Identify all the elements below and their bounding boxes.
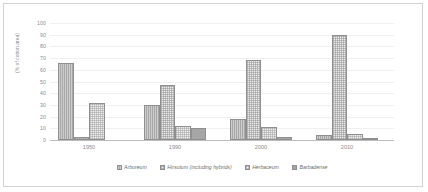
legend-item-label: Herbaceum — [252, 164, 279, 170]
y-axis-tick-label: 30 — [40, 102, 46, 108]
bar-group — [308, 23, 394, 140]
chart-figure-frame: (% of cotton area) 100908070605040302010… — [3, 3, 423, 187]
legend-item-label: Arboreum — [124, 164, 147, 170]
bar — [191, 128, 207, 140]
y-axis-tick-label: 70 — [40, 55, 46, 61]
plot-area — [50, 23, 394, 140]
legend-item-label: Hirsutum (including hybrids) — [167, 164, 231, 170]
chart-legend: ArboreumHirsutum (including hybrids)Herb… — [50, 164, 394, 170]
x-axis-tick-label: 1950 — [83, 144, 95, 150]
x-axis-tick-label: 2000 — [255, 144, 267, 150]
legend-item[interactable]: Barbadense — [292, 164, 327, 170]
bar — [230, 119, 246, 140]
bar — [261, 127, 277, 140]
bar — [58, 63, 74, 140]
legend-swatch-icon — [292, 165, 297, 170]
y-axis-tick-label: 50 — [40, 79, 46, 85]
x-axis-tick-labels: 1950199020002010 — [50, 144, 394, 154]
bar-group — [50, 23, 136, 140]
y-axis-tick-label: 0 — [43, 137, 46, 143]
legend-item[interactable]: Hirsutum (including hybrids) — [160, 164, 232, 170]
x-axis-baseline — [50, 140, 394, 141]
y-axis-tick-label: 20 — [40, 114, 46, 120]
bar-group — [136, 23, 222, 140]
legend-item[interactable]: Arboreum — [117, 164, 147, 170]
y-axis-tick-label: 100 — [37, 20, 46, 26]
bar-group — [222, 23, 308, 140]
y-axis-tick-label: 40 — [40, 90, 46, 96]
x-axis-tick-label: 1990 — [169, 144, 181, 150]
bar — [144, 105, 160, 140]
y-axis-tick-label: 90 — [40, 32, 46, 38]
legend-swatch-icon — [117, 165, 122, 170]
legend-item[interactable]: Herbaceum — [245, 164, 279, 170]
y-axis-title: (% of cotton area) — [14, 10, 20, 96]
y-axis-tick-label: 10 — [40, 125, 46, 131]
bar — [89, 103, 105, 140]
y-axis-tick-label: 60 — [40, 67, 46, 73]
y-axis-tick-label: 80 — [40, 43, 46, 49]
legend-item-label: Barbadense — [299, 164, 327, 170]
bar — [175, 126, 191, 140]
legend-swatch-icon — [245, 165, 250, 170]
y-axis-tick-labels: 1009080706050403020100 — [24, 23, 46, 140]
bar — [332, 35, 348, 140]
legend-swatch-icon — [160, 165, 165, 170]
bar — [160, 85, 176, 140]
x-axis-tick-label: 2010 — [341, 144, 353, 150]
bar — [246, 60, 262, 140]
